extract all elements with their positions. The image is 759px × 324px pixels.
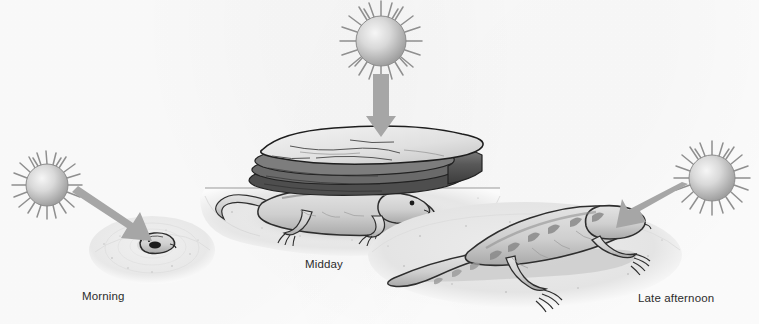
illustration-canvas [0, 0, 759, 324]
shelter-rock-midday [249, 126, 483, 195]
panel-morning [12, 151, 215, 284]
sun-midday [340, 1, 422, 81]
thermoregulation-figure: Morning Midday Late afternoon [0, 0, 759, 324]
sun-morning [12, 151, 82, 219]
panel-label-midday: Midday [305, 258, 343, 270]
sunlight-arrow-late-afternoon [616, 182, 688, 228]
sun-late-afternoon [674, 141, 750, 215]
panel-label-morning: Morning [82, 290, 125, 302]
panel-label-late-afternoon: Late afternoon [638, 292, 714, 304]
